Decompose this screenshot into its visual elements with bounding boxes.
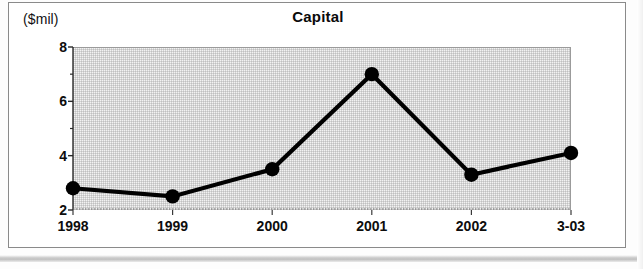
y-tick-label: 4 (13, 148, 67, 164)
x-tick-label: 1998 (57, 218, 88, 234)
y-axis-tick-labels: 2468 (9, 47, 67, 210)
data-point-marker (365, 67, 379, 81)
scan-edge-bottom (0, 255, 643, 262)
x-axis-ticks (73, 210, 571, 215)
data-point-marker (464, 167, 478, 181)
data-point-marker (165, 189, 179, 203)
plot-wrapper: 2468 199819992000200120023-03 (9, 3, 627, 249)
x-tick-label: 2001 (356, 218, 387, 234)
x-tick-label: 3-03 (557, 218, 585, 234)
y-tick-label: 8 (13, 39, 67, 55)
data-line (73, 74, 571, 196)
scanned-page: ($mil) Capital 2468 19981999200020012002… (0, 0, 643, 269)
data-point-markers (66, 67, 578, 204)
y-tick-label: 2 (13, 202, 67, 218)
x-tick-label: 2002 (456, 218, 487, 234)
x-axis-tick-labels: 199819992000200120023-03 (73, 216, 571, 240)
scan-edge-right (637, 0, 643, 269)
data-point-marker (265, 162, 279, 176)
y-tick-label: 6 (13, 93, 67, 109)
line-chart-svg (73, 47, 571, 210)
x-tick-label: 2000 (257, 218, 288, 234)
chart-frame: ($mil) Capital 2468 19981999200020012002… (8, 2, 626, 248)
x-tick-label: 1999 (157, 218, 188, 234)
data-point-marker (564, 146, 578, 160)
data-point-marker (66, 181, 80, 195)
